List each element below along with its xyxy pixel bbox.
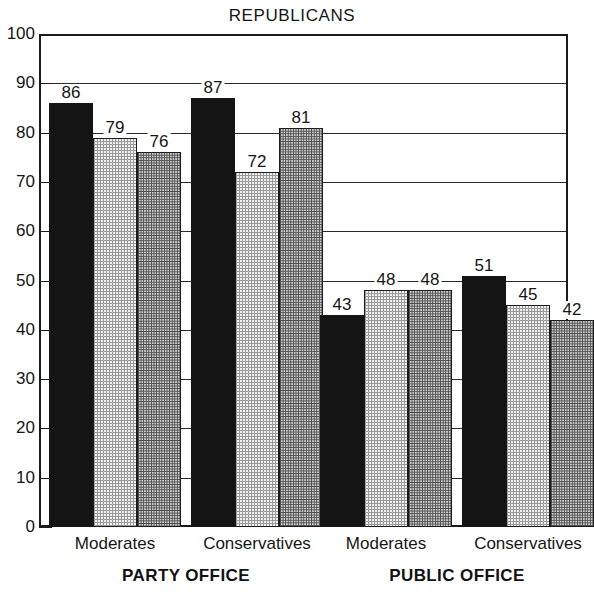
- bar-value-labels: 867976877281434848514542: [39, 34, 568, 527]
- bar-value-label: 87: [202, 79, 225, 97]
- category-label: Conservatives: [203, 534, 311, 554]
- y-axis-tick-label: 0: [26, 517, 35, 537]
- y-axis-tick-label: 50: [16, 271, 35, 291]
- category-label: Conservatives: [474, 534, 582, 554]
- y-axis-tick-label: 100: [7, 24, 35, 44]
- bar-value-label: 72: [246, 153, 269, 171]
- y-axis-tick-label: 20: [16, 418, 35, 438]
- chart-title: REPUBLICANS: [0, 6, 584, 26]
- bar-value-label: 81: [290, 109, 313, 127]
- y-axis-tick: [39, 527, 52, 528]
- y-axis-tick-label: 80: [16, 123, 35, 143]
- category-label: Moderates: [75, 534, 155, 554]
- y-axis-tick-label: 60: [16, 221, 35, 241]
- section-label: PARTY OFFICE: [122, 566, 250, 586]
- group-section-labels: PARTY OFFICEPUBLIC OFFICE: [39, 566, 568, 592]
- bar-value-label: 79: [104, 119, 127, 137]
- bar-value-label: 45: [517, 286, 540, 304]
- y-axis-tick-label: 30: [16, 369, 35, 389]
- category-label: Moderates: [346, 534, 426, 554]
- bar-value-label: 48: [419, 271, 442, 289]
- bar-value-label: 51: [473, 257, 496, 275]
- y-axis-tick-label: 90: [16, 73, 35, 93]
- bar-value-label: 86: [60, 84, 83, 102]
- y-axis-tick-label: 40: [16, 320, 35, 340]
- y-axis-tick-label: 10: [16, 468, 35, 488]
- section-label: PUBLIC OFFICE: [389, 566, 525, 586]
- bar-value-label: 43: [331, 296, 354, 314]
- y-axis-tick-label: 70: [16, 172, 35, 192]
- y-axis-labels: 0102030405060708090100: [0, 34, 35, 527]
- bar-value-label: 42: [561, 301, 584, 319]
- bar-value-label: 76: [148, 133, 171, 151]
- bar-value-label: 48: [375, 271, 398, 289]
- category-labels: ModeratesConservativesModeratesConservat…: [39, 534, 568, 558]
